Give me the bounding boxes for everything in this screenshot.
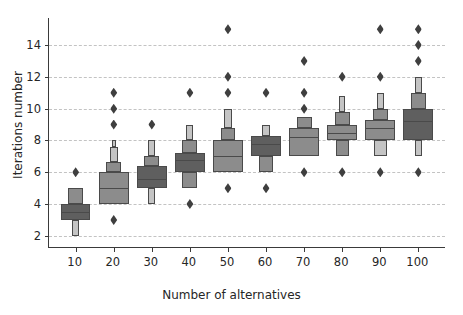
outlier-marker xyxy=(415,56,422,66)
x-tick-label: 100 xyxy=(395,255,439,269)
x-tick-mark xyxy=(152,248,153,252)
x-tick-mark xyxy=(228,248,229,252)
x-tick-mark xyxy=(304,248,305,252)
y-tick-label: 10 xyxy=(0,102,41,116)
y-tick-label: 12 xyxy=(0,70,41,84)
x-tick-mark xyxy=(76,248,77,252)
x-tick-mark xyxy=(342,248,343,252)
outlier-marker xyxy=(415,167,422,177)
y-tick-label: 8 xyxy=(0,133,41,147)
x-tick-mark xyxy=(190,248,191,252)
outlier-marker xyxy=(415,24,422,34)
boxen-level xyxy=(403,109,433,141)
y-tick-label: 2 xyxy=(0,229,41,243)
boxen-level xyxy=(415,140,422,156)
boxen-chart-figure: Iterations number Number of alternatives… xyxy=(0,0,463,315)
boxen-level xyxy=(415,77,422,93)
x-tick-mark xyxy=(266,248,267,252)
outlier-marker xyxy=(415,40,422,50)
y-tick-label: 6 xyxy=(0,165,41,179)
x-tick-mark xyxy=(380,248,381,252)
y-tick-label: 14 xyxy=(0,38,41,52)
boxen-group xyxy=(49,18,445,247)
y-axis-label: Iterations number xyxy=(11,25,25,225)
x-axis-label: Number of alternatives xyxy=(0,288,463,302)
plot-area xyxy=(48,18,445,248)
x-tick-mark xyxy=(418,248,419,252)
boxen-level xyxy=(411,93,426,109)
x-tick-mark xyxy=(114,248,115,252)
median-line xyxy=(403,121,433,122)
y-tick-label: 4 xyxy=(0,197,41,211)
